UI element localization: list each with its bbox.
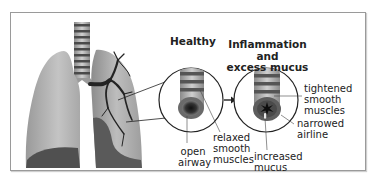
label-relaxed-smooth-muscles: relaxed smooth muscles	[213, 132, 254, 165]
inflamed-airway-illustration	[234, 66, 298, 132]
healthy-title: Healthy	[170, 36, 212, 48]
label-open-airway: open airway	[178, 146, 208, 168]
label-increased-mucus: increased mucus	[254, 151, 303, 173]
label-narrowed-airline: narrowed airline	[297, 118, 344, 140]
healthy-airway-illustration	[159, 64, 223, 132]
left-lung	[26, 51, 80, 168]
label-tightened-smooth-muscles: tightened smooth muscles	[304, 83, 352, 116]
right-lung	[90, 50, 142, 168]
inflammation-title: Inflammation and excess mucus	[220, 39, 315, 74]
